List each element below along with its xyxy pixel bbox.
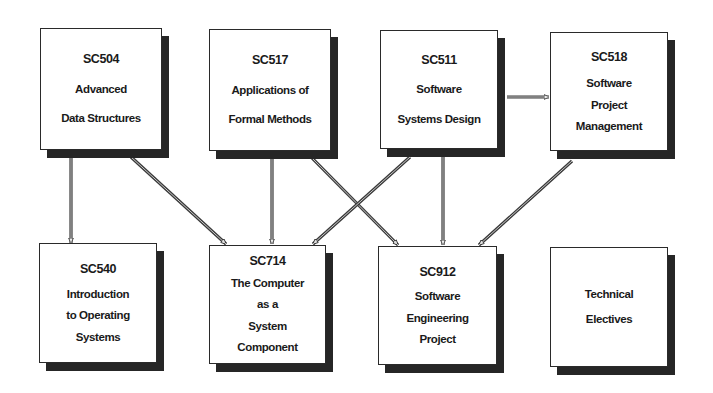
course-box-sc517: SC517 Applications of Formal Methods xyxy=(209,29,331,151)
course-title-line: Technical xyxy=(585,289,634,301)
course-box-technical-electives: Technical Electives xyxy=(550,247,668,367)
course-code: SC504 xyxy=(83,53,119,66)
arrow-sc511-to-sc714 xyxy=(313,157,410,244)
course-title-line: System xyxy=(248,321,287,333)
course-code: SC540 xyxy=(80,263,116,276)
course-title-line: Management xyxy=(576,121,642,133)
course-title-line: Formal Methods xyxy=(228,114,311,126)
course-box-sc912: SC912 Software Engineering Project xyxy=(378,246,497,365)
course-title-line: Engineering xyxy=(406,313,468,325)
course-title-line: Systems Design xyxy=(397,114,480,126)
course-title-line: Data Structures xyxy=(61,113,141,125)
course-code: SC714 xyxy=(249,255,285,268)
course-box-sc518: SC518 Software Project Management xyxy=(550,32,668,151)
course-title-line: Software xyxy=(416,84,461,96)
course-code: SC912 xyxy=(419,266,455,279)
course-title-line: Component xyxy=(237,342,297,354)
course-box-sc714: SC714 The Computer as a System Component xyxy=(209,245,326,364)
course-title-line: Software xyxy=(415,291,460,303)
course-box-sc540: SC540 Introduction to Operating Systems xyxy=(39,243,157,363)
course-title-line: Project xyxy=(419,334,455,346)
course-box-sc504: SC504 Advanced Data Structures xyxy=(40,28,162,150)
arrow-sc504-to-sc714 xyxy=(131,157,226,244)
course-flow-diagram: SC504 Advanced Data Structures SC517 App… xyxy=(0,0,713,393)
course-title-line: The Computer xyxy=(231,278,304,290)
course-title-line: Systems xyxy=(76,332,121,344)
course-code: SC511 xyxy=(421,54,457,67)
course-title-line: Advanced xyxy=(75,84,127,96)
course-title-line: as a xyxy=(257,299,278,311)
course-title-line: Applications of xyxy=(231,85,308,97)
course-title-line: to Operating xyxy=(66,310,130,322)
course-code: SC517 xyxy=(252,54,288,67)
course-title-line: Introduction xyxy=(67,289,129,301)
course-title-line: Electives xyxy=(586,314,632,326)
course-box-sc511: SC511 Software Systems Design xyxy=(380,30,498,149)
arrow-sc518-to-sc912 xyxy=(479,161,572,245)
course-code: SC518 xyxy=(591,51,627,64)
course-title-line: Software xyxy=(586,78,631,90)
course-title-line: Project xyxy=(591,100,627,112)
